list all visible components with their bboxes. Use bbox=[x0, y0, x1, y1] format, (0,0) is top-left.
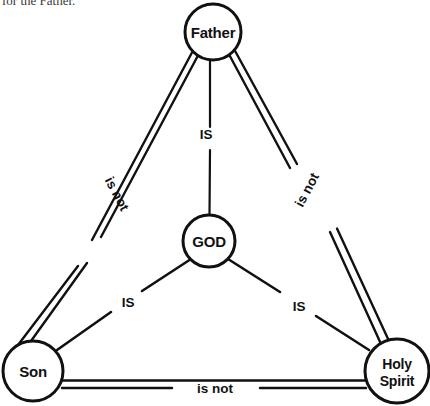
node-god-label: GOD bbox=[192, 233, 226, 250]
edge-label-father-son: is not bbox=[102, 174, 132, 213]
node-holy-spirit-label-line-1: Holy bbox=[382, 356, 412, 372]
trinity-diagram: is not is not is not IS bbox=[0, 0, 430, 406]
edge-god-son: IS bbox=[57, 259, 191, 350]
node-god[interactable]: GOD bbox=[183, 215, 235, 267]
edge-god-father: IS bbox=[200, 60, 213, 215]
node-holy-spirit-label-line-2: Spirit bbox=[380, 373, 415, 389]
edge-label-god-father: IS bbox=[200, 127, 213, 142]
node-son-label: Son bbox=[19, 363, 47, 380]
edge-label-father-holyspirit: is not bbox=[292, 170, 322, 209]
edge-label-god-son: IS bbox=[122, 295, 135, 310]
node-father-label: Father bbox=[191, 24, 236, 41]
edge-label-god-holyspirit: IS bbox=[293, 299, 306, 314]
node-father[interactable]: Father bbox=[185, 4, 241, 60]
edge-father-son: is not bbox=[18, 53, 198, 349]
page-root: for the Father. is not is not bbox=[0, 0, 430, 406]
node-son[interactable]: Son bbox=[3, 341, 63, 401]
edge-son-holyspirit: is not bbox=[62, 381, 366, 397]
edge-father-holyspirit: is not bbox=[228, 49, 389, 344]
edge-label-son-holyspirit: is not bbox=[197, 381, 234, 396]
node-holy-spirit[interactable]: Holy Spirit bbox=[365, 339, 429, 403]
